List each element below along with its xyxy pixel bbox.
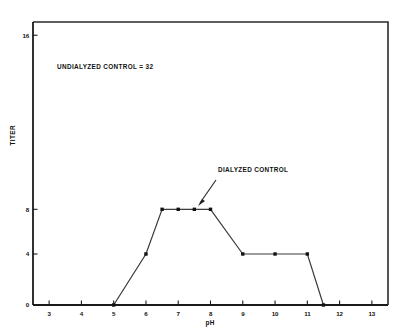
- dialyzed-annotation-arrow: [198, 180, 216, 206]
- data-point-marker: [193, 208, 196, 211]
- data-point-marker: [144, 252, 147, 255]
- data-point-marker: [241, 252, 244, 255]
- data-point-marker: [273, 252, 276, 255]
- x-tick-label: 7: [177, 310, 181, 317]
- undialyzed-control-annotation: UNDIALYZED CONTROL = 32: [57, 63, 153, 70]
- y-axis-ticks: 04816: [23, 32, 38, 309]
- x-tick-label: 11: [304, 310, 311, 317]
- data-series-group: [112, 208, 325, 307]
- data-point-marker: [177, 208, 180, 211]
- x-axis-title: pH: [206, 319, 215, 327]
- y-axis-title: TITER: [9, 126, 16, 146]
- data-point-marker: [209, 208, 212, 211]
- chart-canvas: 345678910111213 04816 pH: [0, 0, 410, 331]
- figure-container: 345678910111213 04816 pH TITER UNDIALYZE…: [0, 0, 410, 331]
- y-tick-label: 8: [26, 206, 30, 213]
- x-tick-label: 10: [272, 310, 279, 317]
- x-tick-label: 6: [144, 310, 148, 317]
- y-tick-label: 0: [26, 301, 30, 308]
- data-point-marker: [112, 303, 115, 306]
- arrow-head: [198, 199, 205, 206]
- x-axis-ticks: 345678910111213: [48, 301, 376, 318]
- x-tick-label: 13: [369, 310, 376, 317]
- x-tick-label: 3: [48, 310, 52, 317]
- data-point-marker: [160, 208, 163, 211]
- data-line: [114, 209, 324, 305]
- data-point-marker: [322, 303, 325, 306]
- x-tick-label: 9: [241, 310, 245, 317]
- x-tick-label: 4: [80, 310, 84, 317]
- x-tick-label: 5: [112, 310, 116, 317]
- y-tick-label: 4: [26, 250, 30, 257]
- dialyzed-control-annotation: DIALYZED CONTROL: [218, 166, 288, 173]
- data-point-marker: [306, 252, 309, 255]
- y-tick-label: 16: [23, 32, 30, 39]
- x-tick-label: 8: [209, 310, 213, 317]
- x-tick-label: 12: [336, 310, 343, 317]
